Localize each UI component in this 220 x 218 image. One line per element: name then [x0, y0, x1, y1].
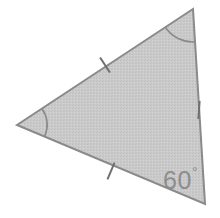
geometry-figure-container: 60 °	[0, 0, 220, 218]
triangle-diagram-svg: 60 °	[0, 0, 220, 218]
angle-label-60-degrees: 60	[163, 166, 192, 194]
tick-mark-right-side	[198, 101, 199, 119]
degree-symbol-icon: °	[192, 164, 198, 180]
